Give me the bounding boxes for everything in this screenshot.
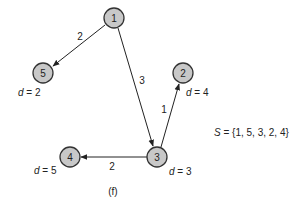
- distance-label-node-4: d = 5: [34, 165, 57, 176]
- node-label: 3: [154, 152, 160, 163]
- node-3: 3: [147, 147, 167, 167]
- node-5: 5: [33, 63, 53, 83]
- edge-weight-label: 1: [161, 104, 167, 115]
- node-2: 2: [173, 63, 193, 83]
- distance-label-node-5: d = 2: [18, 87, 41, 98]
- node-4: 4: [60, 147, 80, 167]
- edge-1-to-3: 3: [118, 28, 153, 146]
- edge-1-to-5: 2: [53, 25, 105, 66]
- edge-weight-label: 2: [77, 31, 83, 42]
- node-label: 5: [40, 68, 46, 79]
- node-1: 1: [104, 8, 124, 28]
- node-label: 4: [67, 152, 73, 163]
- distance-label-node-3: d = 3: [169, 166, 192, 177]
- edge-3-to-2: 1: [161, 84, 179, 147]
- graph-diagram: 2 3 1 2 1 5 2 3 4 d = 2 d = 4 d = 3 d = …: [0, 0, 298, 212]
- edge-weight-label: 3: [139, 75, 145, 86]
- visited-set-label: S = {1, 5, 3, 2, 4}: [214, 127, 289, 138]
- figure-caption: (f): [108, 186, 117, 197]
- edge-weight-label: 2: [109, 161, 115, 172]
- edge-3-to-4: 2: [81, 157, 147, 172]
- distance-label-node-2: d = 4: [186, 87, 209, 98]
- node-label: 2: [180, 68, 186, 79]
- node-label: 1: [111, 13, 117, 24]
